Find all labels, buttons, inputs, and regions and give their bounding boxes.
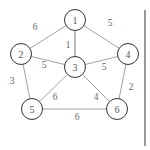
edge-weight-2-3: 5 (42, 60, 47, 70)
edge-weight-3-6: 4 (94, 92, 99, 102)
node-label: 1 (73, 15, 78, 26)
edge-weight-1-3: 1 (66, 40, 71, 50)
node-3: 3 (65, 57, 86, 78)
node-4: 4 (118, 44, 139, 65)
node-label: 4 (126, 49, 131, 60)
node-2: 2 (11, 44, 32, 65)
node-label: 5 (30, 104, 35, 115)
edge-weight-3-5: 6 (53, 92, 58, 102)
node-label: 6 (115, 104, 120, 115)
node-5: 5 (22, 99, 43, 120)
edge-weight-4-6: 2 (129, 82, 134, 92)
edge-weight-1-2: 6 (33, 22, 38, 32)
node-6: 6 (107, 99, 128, 120)
edge-weight-1-4: 5 (108, 18, 113, 28)
weighted-graph-diagram: 6155536426 123456 (0, 0, 150, 150)
node-1: 1 (65, 10, 86, 31)
edge-weight-5-6: 6 (75, 112, 80, 122)
node-label: 3 (73, 62, 78, 73)
nodes-layer: 123456 (11, 10, 139, 120)
edge-weight-2-5: 3 (10, 76, 15, 86)
edge-weight-3-4: 5 (102, 62, 107, 72)
node-label: 2 (19, 49, 24, 60)
